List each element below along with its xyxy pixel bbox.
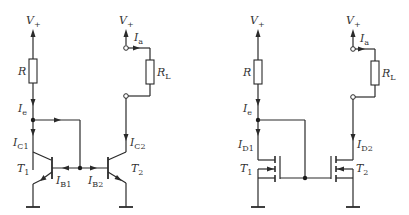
bjt-ib1-arrow-icon [62,166,69,171]
bjt-t2-emitter-arrow-icon [115,175,123,181]
bjt-ic2-arrow-icon [124,134,129,141]
bjt-ie-label: Ie [17,102,27,117]
mos-t2-label: T2 [356,162,368,177]
bjt-ib1-label: IB1 [55,174,71,189]
bjt-load-label: RL [156,66,171,81]
mos-load-terminal-bottom [351,95,356,100]
mos-load-terminal-top [351,47,356,52]
bjt-t2-label: T2 [131,162,143,177]
mos-id2-label: ID2 [356,138,373,153]
bjt-ie-arrow-icon [31,99,36,106]
mos-id1-arrow-icon [256,129,261,136]
bjt-resistor-r-label: R [17,65,26,78]
bjt-ic1-arrow-icon [31,129,36,136]
mos-supply-arrow-icon [256,29,261,37]
mos-id1-label: ID1 [237,138,254,153]
mos-t1-label: T1 [240,162,252,177]
bjt-ia-arrow-icon [133,46,140,51]
mos-out-supply-arrow-icon [351,29,356,37]
mos-node-gate [303,176,307,180]
mos-t2-body-arrow-icon [337,167,344,172]
mos-current-mirror: V+ R Ie ID1 T1 [237,14,396,207]
mos-ia-label: Ia [359,32,369,47]
bjt-out-supply-arrow-icon [124,29,129,37]
current-mirror-diagram: V+ R Ie IC1 T1 IB1 IB2 [0,0,409,215]
bjt-ic1-label: IC1 [12,136,29,151]
mos-resistor-r [254,60,262,84]
bjt-ic2-label: IC2 [129,136,146,151]
bjt-supply-arrow-icon [31,29,36,37]
bjt-ib2-label: IB2 [87,174,103,189]
mos-load-resistor [371,61,379,85]
bjt-vplus-ref-label: V+ [26,14,41,29]
mos-ie-label: Ie [242,102,252,117]
bjt-resistor-r [29,59,37,83]
bjt-vplus-out-label: V+ [119,14,134,29]
mos-load-label: RL [381,67,396,82]
bjt-node-base [78,166,82,170]
bjt-load-terminal-top [124,46,129,51]
bjt-ib2-arrow-icon [90,166,97,171]
bjt-current-mirror: V+ R Ie IC1 T1 IB1 IB2 [12,14,171,207]
mos-resistor-r-label: R [242,66,251,79]
mos-id2-arrow-icon [351,134,356,141]
mos-vplus-out-label: V+ [346,14,361,29]
bjt-ia-label: Ia [133,31,143,46]
mos-ia-arrow-icon [358,47,365,52]
mos-ie-arrow-icon [256,99,261,106]
bjt-t1-label: T1 [17,162,29,177]
bjt-load-terminal-bottom [124,94,129,99]
bjt-feedback-arrow-icon [54,118,61,123]
mos-t1-body-arrow-icon [267,167,274,172]
mos-vplus-ref-label: V+ [250,14,265,29]
bjt-load-resistor [146,60,154,84]
